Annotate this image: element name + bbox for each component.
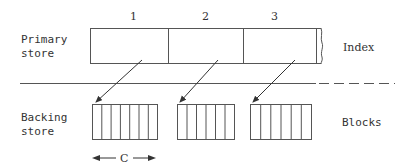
backing-store-label-line1: Backing <box>21 111 67 124</box>
index-box <box>90 28 323 64</box>
backing-store-label-line2: store <box>21 125 54 138</box>
index-backing-store-diagram: Primary store 1 2 3 Index Backing store <box>0 0 409 168</box>
torn-edge <box>321 28 323 64</box>
pointer-arrows <box>96 60 295 102</box>
arrow-right-icon <box>148 155 156 161</box>
pointer-arrow-3 <box>253 60 295 102</box>
pointer-arrow-2 <box>180 60 218 102</box>
index-label: Index <box>343 41 375 54</box>
index-cell-number-2: 2 <box>202 10 209 23</box>
primary-store-label-line2: store <box>21 47 54 60</box>
pointer-arrow-1 <box>96 60 142 102</box>
block-width-dimension: C <box>92 152 156 165</box>
primary-store-label-line1: Primary <box>21 33 68 46</box>
index-cell-number-1: 1 <box>130 10 137 23</box>
blocks-label: Blocks <box>342 116 382 129</box>
dimension-label: C <box>120 152 128 165</box>
block-2 <box>178 104 235 140</box>
index-cell-number-3: 3 <box>271 10 278 23</box>
block-3 <box>251 104 312 140</box>
block-1 <box>93 104 158 140</box>
arrow-left-icon <box>92 155 100 161</box>
